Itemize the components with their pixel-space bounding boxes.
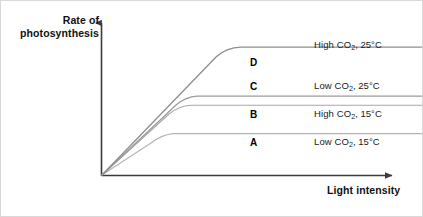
curve-condition-b-sub: 2 (351, 112, 355, 121)
curve-condition-b-prefix: High CO (314, 108, 351, 119)
curve-condition-c-sub: 2 (349, 84, 353, 93)
curve-condition-b-suffix: , 15°C (355, 108, 382, 119)
curve-condition-d-sub: 2 (351, 43, 355, 52)
curve-condition-a-sub: 2 (349, 140, 353, 149)
y-axis-title-line2: photosynthesis (20, 27, 99, 40)
photosynthesis-light-response-chart: Rate of photosynthesis Light intensity D… (0, 0, 423, 217)
curve-condition-a-prefix: Low CO (314, 136, 349, 147)
curve-label-b: B (250, 109, 257, 120)
curve-label-d: D (250, 57, 257, 68)
curve-condition-a: Low CO2, 15°C (314, 136, 380, 147)
curve-label-a: A (250, 137, 257, 148)
y-axis-title-line1: Rate of (20, 14, 99, 27)
x-axis-title: Light intensity (327, 184, 400, 197)
curve-condition-c-prefix: Low CO (314, 80, 349, 91)
curve-condition-d-prefix: High CO (314, 39, 351, 50)
curve-condition-c-suffix: , 25°C (353, 80, 380, 91)
curve-condition-b: High CO2, 15°C (314, 108, 382, 119)
curve-condition-c: Low CO2, 25°C (314, 80, 380, 91)
curve-label-c: C (250, 81, 257, 92)
curve-condition-a-suffix: , 15°C (353, 136, 380, 147)
curve-condition-d: High CO2, 25°C (314, 39, 382, 50)
y-axis-title: Rate of photosynthesis (20, 14, 99, 39)
curve-condition-d-suffix: , 25°C (355, 39, 382, 50)
